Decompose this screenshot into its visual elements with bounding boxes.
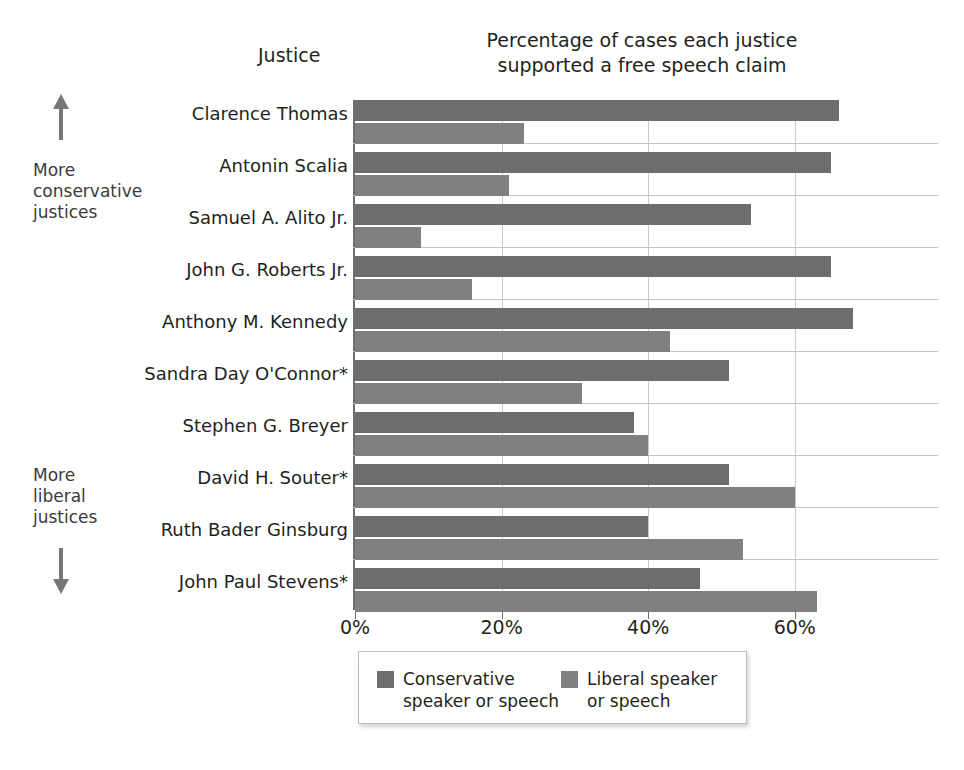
x-axis-tick-label: 20% <box>480 616 522 638</box>
bar <box>355 360 729 381</box>
legend-item-conservative: Conservative speaker or speech <box>377 668 559 712</box>
vertical-gridline <box>795 100 796 610</box>
bar <box>355 123 524 144</box>
x-axis-tick-label: 60% <box>774 616 816 638</box>
category-label: David H. Souter* <box>197 467 348 488</box>
bar <box>355 279 472 300</box>
bar <box>355 100 839 121</box>
legend-swatch-liberal <box>561 671 578 688</box>
legend-swatch-conservative <box>377 671 394 688</box>
category-label: John G. Roberts Jr. <box>186 259 348 280</box>
bar <box>355 568 700 589</box>
legend-label-conservative: Conservative speaker or speech <box>403 668 559 712</box>
x-axis-tick-label: 40% <box>627 616 669 638</box>
chart-legend: Conservative speaker or speech Liberal s… <box>358 651 747 724</box>
row-separator-gridline <box>353 247 938 248</box>
bar <box>355 487 795 508</box>
category-label: Anthony M. Kennedy <box>162 311 348 332</box>
category-label: Antonin Scalia <box>219 155 348 176</box>
bar <box>355 516 648 537</box>
category-axis-labels: Clarence ThomasAntonin ScaliaSamuel A. A… <box>0 100 348 610</box>
bar <box>355 308 853 329</box>
category-label: Ruth Bader Ginsburg <box>161 519 348 540</box>
bar <box>355 331 670 352</box>
free-speech-chart-figure: More conservative justices More liberal … <box>0 0 964 770</box>
bar <box>355 227 421 248</box>
plot-area <box>355 100 940 610</box>
category-label: Stephen G. Breyer <box>182 415 348 436</box>
bar <box>355 175 509 196</box>
category-label: Samuel A. Alito Jr. <box>188 207 348 228</box>
bar <box>355 412 634 433</box>
category-label: Sandra Day O'Connor* <box>144 363 348 384</box>
vertical-gridline <box>648 100 649 610</box>
bar <box>355 435 648 456</box>
legend-label-liberal: Liberal speaker or speech <box>587 668 717 712</box>
bar <box>355 539 743 560</box>
bar <box>355 383 582 404</box>
bar <box>355 152 831 173</box>
legend-item-liberal: Liberal speaker or speech <box>561 668 717 712</box>
chart-title: Percentage of cases each justice support… <box>462 28 822 78</box>
bar <box>355 464 729 485</box>
bar <box>355 256 831 277</box>
bar <box>355 204 751 225</box>
x-axis-tick-label: 0% <box>340 616 370 638</box>
category-label: John Paul Stevens* <box>179 571 348 592</box>
justice-column-header: Justice <box>258 44 320 66</box>
category-label: Clarence Thomas <box>192 103 348 124</box>
bar <box>355 591 817 612</box>
